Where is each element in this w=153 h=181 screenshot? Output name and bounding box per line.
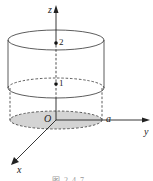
point-1	[54, 82, 58, 86]
z-axis-label: z	[48, 5, 52, 15]
z-axis-arrow-icon	[54, 5, 59, 13]
figure-caption: 图 2.4.7	[52, 174, 85, 181]
y-axis-label: y	[144, 127, 148, 137]
radius-label: a	[106, 114, 111, 124]
point-2	[54, 41, 58, 45]
point-1-label: 1	[59, 79, 64, 88]
origin-label: O	[44, 114, 51, 124]
point-2-label: 2	[59, 38, 64, 47]
x-axis-label: x	[17, 165, 21, 175]
cylinder-diagram	[0, 0, 153, 181]
y-axis-arrow-icon	[142, 118, 150, 123]
